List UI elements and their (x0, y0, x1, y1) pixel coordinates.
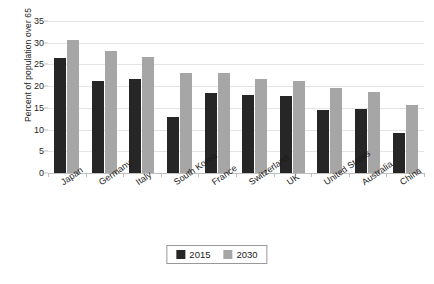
bar-2015-united-states (317, 110, 329, 173)
bar-2030-china (406, 105, 418, 173)
bar-2030-japan (67, 40, 79, 173)
bar-group (86, 21, 124, 173)
legend-swatch-icon-2030 (224, 250, 233, 259)
legend-entry-2030[interactable]: 2030 (224, 249, 258, 260)
y-tick-label-20: 20 (14, 81, 44, 91)
legend-swatch-icon-2015 (176, 250, 185, 259)
y-tick-label-35: 35 (14, 16, 44, 26)
bar-2030-germany (105, 51, 117, 173)
y-tick-mark-30 (44, 42, 48, 43)
legend-label-2015: 2015 (189, 249, 210, 260)
bar-2030-italy (142, 57, 154, 173)
bar-group (48, 21, 86, 173)
y-tick-mark-10 (44, 129, 48, 130)
chart-legend: 20152030 (166, 245, 267, 264)
bar-group (386, 21, 424, 173)
x-axis-label-italy: Italy (134, 170, 153, 188)
y-tick-mark-25 (44, 64, 48, 65)
bar-2015-switzerland (242, 95, 254, 173)
x-tick-mark (424, 173, 425, 177)
bar-2015-italy (129, 79, 141, 173)
bar-2015-south-korea (167, 117, 179, 173)
bar-group (198, 21, 236, 173)
bar-2030-switzerland (255, 79, 267, 173)
legend-entry-2015[interactable]: 2015 (176, 249, 210, 260)
bar-group (274, 21, 312, 173)
x-axis-label-uk: UK (285, 172, 301, 187)
bar-2030-france (218, 73, 230, 173)
bar-2015-japan (54, 58, 66, 173)
y-tick-mark-15 (44, 107, 48, 108)
bar-chart: Percent of population over 65 3530252015… (0, 0, 434, 284)
y-tick-label-10: 10 (14, 125, 44, 135)
y-tick-label-30: 30 (14, 38, 44, 48)
y-tick-label-5: 5 (14, 146, 44, 156)
y-tick-mark-20 (44, 86, 48, 87)
bar-group (311, 21, 349, 173)
y-tick-mark-5 (44, 151, 48, 152)
x-axis-labels: JapanGermanyItalySouth KoreaFranceSwitze… (48, 173, 424, 231)
y-tick-mark-35 (44, 21, 48, 22)
bar-2015-germany (92, 81, 104, 174)
bar-group (123, 21, 161, 173)
y-tick-label-15: 15 (14, 103, 44, 113)
y-tick-label-25: 25 (14, 59, 44, 69)
bar-2030-uk (293, 81, 305, 174)
y-tick-label-0: 0 (14, 168, 44, 178)
bar-group (236, 21, 274, 173)
legend-label-2030: 2030 (237, 249, 258, 260)
bar-2030-south-korea (180, 73, 192, 173)
bar-2030-australia (368, 92, 380, 173)
bar-group (161, 21, 199, 173)
bar-2030-united-states (330, 88, 342, 173)
